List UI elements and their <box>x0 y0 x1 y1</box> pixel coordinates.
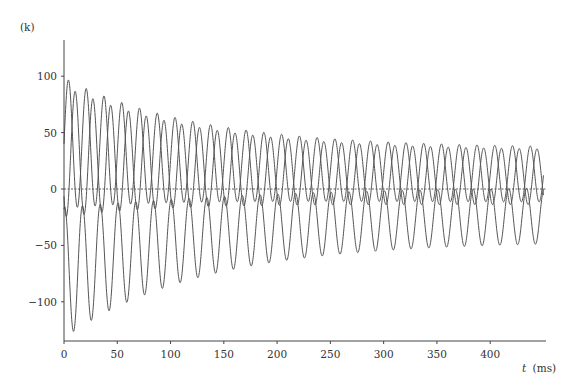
y-tick-label: 100 <box>37 70 57 82</box>
y-tick-label: 0 <box>50 183 57 195</box>
series-line-phase-c <box>64 189 543 332</box>
x-tick-label: 150 <box>214 348 234 360</box>
series-group <box>64 80 543 331</box>
x-tick-label: 50 <box>111 348 124 360</box>
x-axis-label-var: t <box>522 362 527 374</box>
chart: (k) 100500−50−100 0501001502002503003504… <box>0 0 570 391</box>
x-axis-ticks: 050100150200250300350400 <box>61 341 501 360</box>
y-tick-label: −50 <box>35 239 57 251</box>
x-axis-label-unit: (ms) <box>533 362 557 374</box>
x-tick-label: 0 <box>61 348 68 360</box>
y-tick-label: 50 <box>44 127 57 139</box>
y-axis-label: (k) <box>20 21 35 33</box>
y-axis-ticks: 100500−50−100 <box>28 70 64 308</box>
x-tick-label: 400 <box>480 348 500 360</box>
x-tick-label: 200 <box>267 348 287 360</box>
x-tick-label: 300 <box>374 348 394 360</box>
x-tick-label: 350 <box>427 348 447 360</box>
y-tick-label: −100 <box>28 296 57 308</box>
series-line-phase-b <box>64 91 543 216</box>
x-axis-label: t (ms) <box>522 362 556 374</box>
x-tick-label: 250 <box>320 348 340 360</box>
x-tick-label: 100 <box>161 348 181 360</box>
